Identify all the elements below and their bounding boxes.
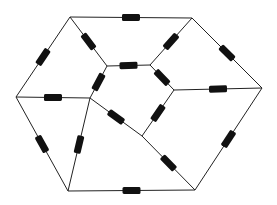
- resistor-icon: [91, 72, 106, 91]
- wires: [16, 17, 262, 191]
- resistor-icon: [221, 130, 237, 149]
- resistors: [35, 14, 237, 194]
- resistor-icon: [44, 94, 62, 101]
- resistor-icon: [218, 44, 236, 62]
- resistor-icon: [209, 85, 227, 92]
- resistor-icon: [162, 32, 179, 50]
- resistor-icon: [35, 134, 50, 153]
- resistor-icon: [150, 104, 166, 123]
- resistor-icon: [119, 62, 137, 69]
- resistor-icon: [80, 32, 96, 51]
- resistor-icon: [153, 69, 171, 87]
- resistor-network-diagram: [0, 0, 277, 205]
- resistor-icon: [122, 187, 140, 194]
- resistor-icon: [35, 48, 51, 67]
- resistor-icon: [122, 14, 140, 21]
- resistor-icon: [107, 109, 126, 125]
- resistor-icon: [74, 135, 85, 154]
- resistor-icon: [160, 154, 178, 172]
